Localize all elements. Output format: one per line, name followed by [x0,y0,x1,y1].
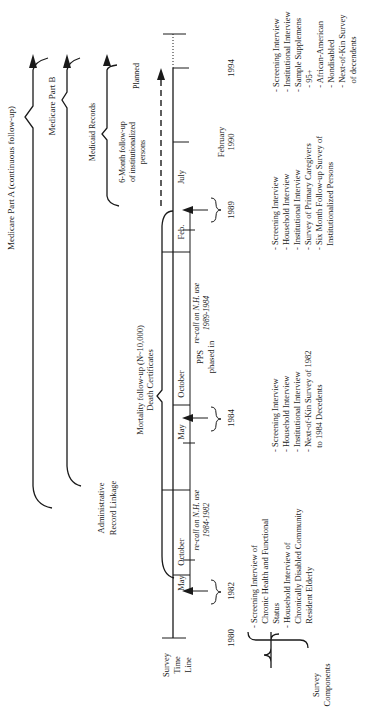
svg-text:Chronic Health and Functional: Chronic Health and Functional [260,518,270,628]
month-may-1982: May [176,574,186,590]
year-1984: 1984 [226,409,236,428]
month-feb-1989: Feb. [176,225,186,240]
medicare-part-a-label: Medicare Part A (continuous follow-up) [6,106,16,250]
svg-text:Resident Elderly: Resident Elderly [304,566,314,628]
year-1989: 1989 [226,201,236,220]
recall-1989-1984-line2: 1989-1984 [202,296,211,331]
recall-1984-1982-line1: re-call on N.H. use [192,489,201,550]
medicaid-label: Medicaid Records [88,103,97,161]
recall-1989-1984-line1: re-call on N.H. use [192,282,201,343]
wave-braces [211,198,221,604]
six-month-followup-label-line1: 6-Month follow-up [118,121,127,183]
survey-time-line-label-1: Survey [161,652,171,677]
wave-1989-arrow [182,206,208,214]
svg-text:- Nondisabled: - Nondisabled [326,39,336,92]
year-1990-label: 1990 [226,134,236,151]
svg-text:- African-American: - African-American [315,20,325,92]
components-1984: - Screening Interview - Household Interv… [270,350,324,452]
month-october-1982: October [176,538,186,566]
svg-text:of decendents: of decendents [348,37,358,92]
month-may-1984: May [176,423,186,439]
planned-label: Planned [132,63,141,89]
svg-text:- Next-of-Kin Survey: - Next-of-Kin Survey [337,14,347,92]
year-1994: 1994 [226,59,236,78]
svg-text:- 95+: - 95+ [304,69,314,92]
pps-label: PPS [195,350,205,364]
survey-components-label-1: Survey [311,672,321,697]
survey-components-brace [264,632,279,668]
svg-text:- Screening Interview: - Screening Interview [270,378,280,452]
svg-text:Status: Status [271,603,281,628]
survey-components-label-2: Components [322,664,332,707]
six-month-followup-label-line3: persons [138,140,147,164]
svg-text:- Next-of-Kin Survey of 1982: - Next-of-Kin Survey of 1982 [303,350,313,452]
planned-followup-dashed-arrow [157,68,165,206]
svg-text:- Institutional Interview: - Institutional Interview [292,370,302,452]
month-october-1984: October [176,370,186,398]
survey-time-line-label-3: Line [183,657,193,673]
svg-text:- Survey of Primary Caregivers: - Survey of Primary Caregivers [303,143,313,250]
svg-text:- Screening Interview: - Screening Interview [270,176,280,250]
recall-1984-1982-line2: 1984-1982 [202,503,211,538]
survey-time-line-label-2: Time [172,656,182,674]
longitudinal-survey-timeline-diagram: Medicare Part A (continuous follow-up) M… [0,0,381,725]
wave-1984-arrow [182,414,208,422]
svg-text:- Household Interview: - Household Interview [281,375,291,452]
svg-text:to 1984 Decedents: to 1984 Decedents [314,384,324,452]
svg-text:- Institutional Interview: - Institutional Interview [292,168,302,250]
pps-phased-in-label: phased in [206,340,216,373]
svg-text:- Household Interview: - Household Interview [281,173,291,250]
svg-text:- Screening Interview of: - Screening Interview of [249,545,259,628]
six-month-followup-label-line2: of institutionalized [128,122,137,182]
admin-record-linkage-label-line2: Record Linkage [108,481,118,536]
svg-text:Chronically Disabled Community: Chronically Disabled Community [293,508,303,628]
svg-text:- Sample Supplemens: - Sample Supplemens [293,18,303,92]
month-july-1989: July [176,169,186,184]
components-1994: - Screening Interview - Institutional In… [271,10,358,92]
components-1989: - Screening Interview - Household Interv… [270,136,335,250]
medicare-part-b-bracket [62,54,81,486]
medicare-part-b-label: Medicare Part B [47,77,57,136]
mortality-followup-bracket [157,211,174,578]
components-1982: - Screening Interview of Chronic Health … [249,508,314,628]
mortality-followup-label: Mortality follow-up (N~10,000) [135,325,145,435]
admin-record-linkage-label-line1: Administrative [96,482,106,533]
medicaid-bracket [102,54,119,206]
year-1980: 1980 [226,629,236,648]
svg-text:Institutionalized Persons: Institutionalized Persons [325,162,335,250]
year-1982: 1982 [226,582,236,600]
svg-text:- Screening Interview: - Screening Interview [271,18,281,92]
february-label: February [216,126,226,157]
svg-text:- Institutional Interview: - Institutional Interview [282,10,292,92]
svg-text:- Household Interview of: - Household Interview of [282,542,292,628]
death-certificates-label: Death Certificates [145,349,155,411]
svg-text:- Six Month Follow-up Survey o: - Six Month Follow-up Survey of [314,136,324,250]
